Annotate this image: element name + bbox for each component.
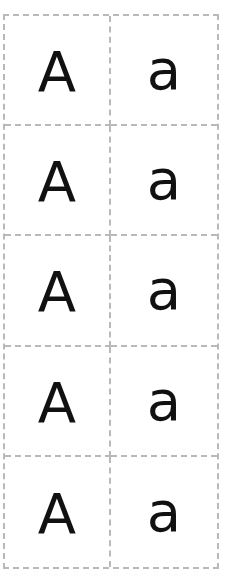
lowercase-letter: a <box>147 42 181 98</box>
card-lowercase: a <box>111 16 217 126</box>
lowercase-letter: a <box>147 484 181 540</box>
uppercase-letter: A <box>38 260 76 320</box>
uppercase-letter: A <box>38 371 76 431</box>
card-uppercase: A <box>5 236 111 346</box>
card-lowercase: a <box>111 236 217 346</box>
uppercase-letter: A <box>38 150 76 210</box>
lowercase-letter: a <box>147 373 181 429</box>
card-uppercase: A <box>5 16 111 126</box>
uppercase-letter: A <box>38 40 76 100</box>
card-lowercase: a <box>111 347 217 457</box>
card-uppercase: A <box>5 126 111 236</box>
card-lowercase: a <box>111 457 217 567</box>
letter-card-grid: A a A a A a A a A a <box>3 14 219 569</box>
uppercase-letter: A <box>38 482 76 542</box>
card-lowercase: a <box>111 126 217 236</box>
card-uppercase: A <box>5 347 111 457</box>
lowercase-letter: a <box>147 152 181 208</box>
lowercase-letter: a <box>147 262 181 318</box>
card-uppercase: A <box>5 457 111 567</box>
